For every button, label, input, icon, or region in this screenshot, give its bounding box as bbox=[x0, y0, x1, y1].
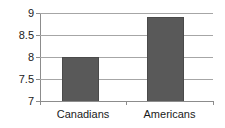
y-tick-label-7: 7 bbox=[0, 96, 34, 107]
y-tick-label-7-5: 7.5 bbox=[0, 74, 34, 85]
y-tick-label-8-5: 8.5 bbox=[0, 30, 34, 41]
gridline-9 bbox=[40, 13, 213, 14]
y-tick-label-8: 8 bbox=[0, 52, 34, 63]
bar-chart: 9 8.5 8 7.5 7 Canadians Americans bbox=[0, 0, 225, 128]
y-axis-labels: 9 8.5 8 7.5 7 bbox=[0, 0, 34, 128]
x-tick-mark-end bbox=[213, 101, 214, 105]
y-tick-label-9: 9 bbox=[0, 8, 34, 19]
x-tick-mark-middle bbox=[126, 101, 127, 105]
x-axis-line bbox=[40, 101, 214, 102]
gridline-8-5 bbox=[40, 35, 213, 36]
bar-americans bbox=[147, 17, 184, 102]
x-category-label-americans: Americans bbox=[126, 108, 213, 121]
plot-area bbox=[40, 13, 213, 101]
bar-canadians bbox=[62, 57, 99, 102]
x-category-label-canadians: Canadians bbox=[40, 108, 126, 121]
x-tick-mark-start bbox=[40, 101, 41, 105]
